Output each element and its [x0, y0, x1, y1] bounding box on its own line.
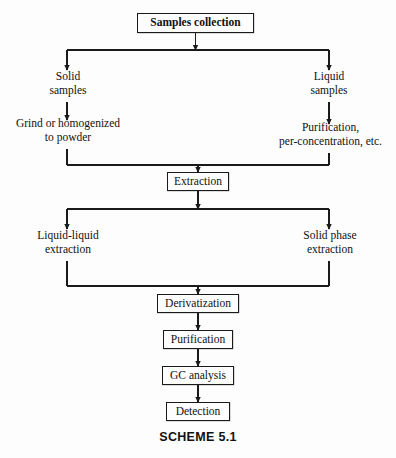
node-solid-samples[interactable]: Solid samples	[22, 70, 114, 97]
node-gc-analysis[interactable]: GC analysis	[162, 366, 234, 385]
node-detection[interactable]: Detection	[166, 402, 230, 421]
scheme-caption: SCHEME 5.1	[0, 430, 396, 444]
node-label: Derivatization	[165, 297, 231, 311]
node-grind-homogenize[interactable]: Grind or homogenized to powder	[4, 117, 132, 144]
node-label: Extraction	[174, 175, 222, 189]
node-label: Samples collection	[150, 16, 240, 30]
node-label: Purification, per-concentration, etc.	[279, 121, 382, 148]
node-liquid-samples[interactable]: Liquid samples	[283, 70, 375, 97]
node-label: Solid samples	[49, 70, 86, 97]
node-label: Detection	[176, 405, 221, 419]
node-label: Solid phase extraction	[303, 229, 356, 256]
scheme-diagram: Samples collection Solid samples Liquid …	[0, 0, 396, 458]
node-label: Liquid-liquid extraction	[37, 229, 98, 256]
node-extraction[interactable]: Extraction	[167, 172, 229, 191]
node-derivatization[interactable]: Derivatization	[157, 294, 239, 313]
node-purification[interactable]: Purification	[163, 330, 233, 349]
node-liquid-liquid-extraction[interactable]: Liquid-liquid extraction	[17, 229, 119, 256]
node-label: Purification	[171, 333, 225, 347]
node-purification-preconcentration[interactable]: Purification, per-concentration, etc.	[265, 121, 396, 148]
node-label: Liquid samples	[310, 70, 347, 97]
node-label: Grind or homogenized to powder	[16, 117, 120, 144]
node-samples-collection[interactable]: Samples collection	[137, 13, 254, 33]
node-label: GC analysis	[170, 369, 226, 383]
node-solid-phase-extraction[interactable]: Solid phase extraction	[281, 229, 379, 256]
